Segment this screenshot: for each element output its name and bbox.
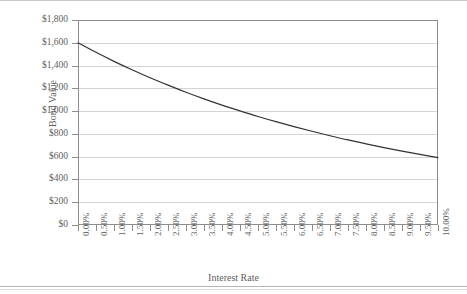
y-axis-tick-label: $1,800 [8, 15, 68, 25]
x-axis-tick [150, 225, 151, 231]
x-axis-tick [204, 225, 205, 231]
x-axis-tick-label: 10.00% [442, 208, 451, 236]
x-axis-tick [312, 225, 313, 231]
x-axis-tick [366, 225, 367, 231]
y-axis-tick-label: $0 [8, 220, 68, 230]
bond-value-curve [78, 43, 438, 158]
x-axis-tick-label: 9.00% [406, 213, 415, 236]
x-axis-tick [168, 225, 169, 231]
x-axis-tick-label: 7.00% [334, 213, 343, 236]
x-axis-tick-label: 4.00% [226, 213, 235, 236]
y-axis-tick-label: $400 [8, 174, 68, 184]
x-axis-tick [438, 225, 439, 231]
figure-bottom-rule [0, 286, 467, 287]
x-axis-tick-label: 5.50% [280, 213, 289, 236]
x-axis-tick-label: 4.50% [244, 213, 253, 236]
x-axis-tick [222, 225, 223, 231]
y-axis-tick-label: $1,400 [8, 61, 68, 71]
x-axis-tick-label: 9.50% [424, 213, 433, 236]
x-axis-tick [384, 225, 385, 231]
y-axis-tick-label: $1,000 [8, 106, 68, 116]
x-axis-tick [186, 225, 187, 231]
y-axis-tick-label: $1,600 [8, 38, 68, 48]
x-axis-title: Interest Rate [0, 272, 467, 283]
x-axis-tick [258, 225, 259, 231]
x-axis-tick [294, 225, 295, 231]
x-axis-tick-label: 5.00% [262, 213, 271, 236]
y-axis-tick-label: $200 [8, 197, 68, 207]
x-axis-tick-label: 1.50% [136, 213, 145, 236]
x-axis-tick [114, 225, 115, 231]
x-axis-tick [78, 225, 79, 231]
figure-bottom-rule-secondary [0, 289, 467, 290]
bond-value-curve-layer [78, 20, 438, 225]
x-axis-tick [276, 225, 277, 231]
plot-area [78, 20, 438, 225]
x-axis-tick-label: 8.50% [388, 213, 397, 236]
y-axis-tick-label: $600 [8, 152, 68, 162]
x-axis-tick [348, 225, 349, 231]
x-axis-tick-label: 0.00% [82, 213, 91, 236]
bond-value-chart: Bond Value $0$200$400$600$800$1,000$1,20… [0, 0, 467, 294]
x-axis-tick-label: 6.00% [298, 213, 307, 236]
x-axis-tick-label: 7.50% [352, 213, 361, 236]
x-axis-tick [240, 225, 241, 231]
x-axis-tick-label: 8.00% [370, 213, 379, 236]
figure-top-rule [0, 0, 467, 1]
x-axis-tick [96, 225, 97, 231]
x-axis-tick-label: 6.50% [316, 213, 325, 236]
x-axis-tick-label: 2.00% [154, 213, 163, 236]
y-axis-tick-label: $1,200 [8, 83, 68, 93]
x-axis-tick-label: 0.50% [100, 213, 109, 236]
x-axis-tick [420, 225, 421, 231]
x-axis-tick-label: 3.00% [190, 213, 199, 236]
x-axis-tick [132, 225, 133, 231]
x-axis-tick-label: 1.00% [118, 213, 127, 236]
x-axis-tick-label: 3.50% [208, 213, 217, 236]
x-axis-tick [402, 225, 403, 231]
x-axis-tick [330, 225, 331, 231]
y-axis-tick-label: $800 [8, 129, 68, 139]
x-axis-tick-label: 2.50% [172, 213, 181, 236]
